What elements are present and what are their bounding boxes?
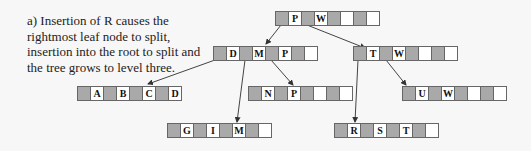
pointer-cell: [335, 124, 348, 137]
pointer-cell: [276, 12, 289, 25]
leaf-node-np: N P: [248, 86, 353, 101]
key-cell: [367, 12, 379, 25]
pointer-cell: [455, 87, 468, 100]
pointer-cell: [429, 87, 442, 100]
pointer-cell: [328, 12, 341, 25]
key-cell: C: [143, 87, 156, 100]
pointer-cell: [361, 124, 374, 137]
pointer-cell: [432, 47, 445, 60]
pointer-cell: [246, 124, 259, 137]
internal-node-left: D M P: [213, 46, 318, 61]
pointer-cell: [413, 124, 426, 137]
leaf-node-rst: R S T: [334, 123, 439, 138]
pointer-cell: [194, 124, 207, 137]
key-cell: [314, 87, 327, 100]
pointer-cell: [481, 87, 494, 100]
key-cell: [340, 87, 352, 100]
key-cell: M: [233, 124, 246, 137]
leaf-node-gim: G I M: [167, 123, 272, 138]
key-cell: A: [91, 87, 104, 100]
key-cell: [305, 47, 317, 60]
key-cell: P: [288, 87, 301, 100]
key-cell: G: [181, 124, 194, 137]
key-cell: I: [207, 124, 220, 137]
key-cell: R: [348, 124, 361, 137]
leaf-node-abcd: A B C D: [77, 86, 182, 101]
pointer-cell: [214, 47, 227, 60]
pointer-cell: [292, 47, 305, 60]
key-cell: W: [315, 12, 328, 25]
pointer-cell: [240, 47, 253, 60]
pointer-cell: [354, 47, 367, 60]
key-cell: T: [400, 124, 413, 137]
key-cell: S: [374, 124, 387, 137]
key-cell: N: [262, 87, 275, 100]
key-cell: [445, 47, 457, 60]
pointer-cell: [380, 47, 393, 60]
key-cell: [494, 87, 506, 100]
pointer-cell: [354, 12, 367, 25]
leaf-node-uw: U W: [402, 86, 507, 101]
key-cell: [419, 47, 432, 60]
key-cell: [259, 124, 271, 137]
pointer-cell: [301, 87, 314, 100]
pointer-cell: [220, 124, 233, 137]
key-cell: T: [367, 47, 380, 60]
pointer-cell: [266, 47, 279, 60]
pointer-cell: [130, 87, 143, 100]
pointer-cell: [78, 87, 91, 100]
key-cell: U: [416, 87, 429, 100]
key-cell: P: [279, 47, 292, 60]
key-cell: [341, 12, 354, 25]
pointer-cell: [275, 87, 288, 100]
key-cell: D: [227, 47, 240, 60]
key-cell: [468, 87, 481, 100]
pointer-cell: [249, 87, 262, 100]
key-cell: D: [169, 87, 181, 100]
pointer-cell: [104, 87, 117, 100]
key-cell: W: [393, 47, 406, 60]
key-cell: [426, 124, 438, 137]
internal-node-right: T W: [353, 46, 458, 61]
pointer-cell: [156, 87, 169, 100]
pointer-cell: [168, 124, 181, 137]
pointer-cell: [302, 12, 315, 25]
key-cell: B: [117, 87, 130, 100]
pointer-cell: [406, 47, 419, 60]
key-cell: W: [442, 87, 455, 100]
pointer-cell: [403, 87, 416, 100]
root-node: P W: [275, 11, 380, 26]
pointer-cell: [327, 87, 340, 100]
key-cell: M: [253, 47, 266, 60]
key-cell: P: [289, 12, 302, 25]
pointer-cell: [387, 124, 400, 137]
